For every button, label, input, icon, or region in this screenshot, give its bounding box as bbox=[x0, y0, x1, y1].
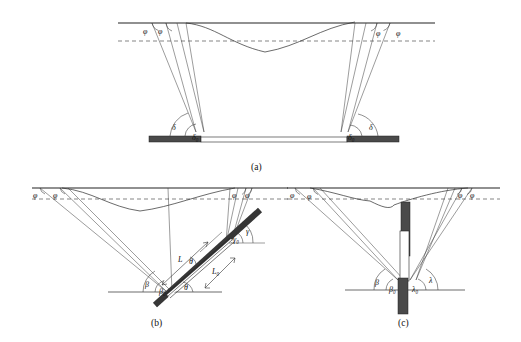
panel-b-length-L0-label: L₀ bbox=[211, 267, 219, 276]
panel-c-beta0-label: β₀ bbox=[388, 285, 396, 294]
panel-b-beta0-label: β₀ bbox=[158, 287, 166, 296]
panel-c-beta-label: β bbox=[374, 278, 379, 287]
panel-c-failure-plane-r4 bbox=[416, 188, 448, 280]
panel-c-settlement-trough-curve bbox=[310, 188, 468, 208]
panel-b: φ φ φ φ β β₀ bbox=[32, 188, 288, 329]
panel-a-hollow-base-bar-center bbox=[201, 137, 347, 142]
panel-b-gamma-label: γ bbox=[246, 227, 250, 236]
panel-a-failure-plane-r4 bbox=[341, 23, 355, 132]
technical-diagram-svg: φ φ φ φ δ δ₀ δ₀ δ (a) bbox=[0, 0, 521, 342]
panel-a-phi-label-1: φ bbox=[143, 27, 148, 36]
panel-a-failure-plane-l4 bbox=[186, 23, 204, 132]
panel-c-failure-plane-l2 bbox=[313, 188, 398, 280]
panel-a-settlement-trough-curve bbox=[186, 22, 355, 52]
panel-b-phi-label-3: φ bbox=[232, 191, 237, 200]
panel-b-failure-plane-l3 bbox=[68, 188, 172, 292]
panel-c-phi-label-4: φ bbox=[470, 191, 475, 200]
panel-b-beta-label: β bbox=[144, 280, 149, 289]
panel-c: φ φ φ φ β β₀ λ λ₀ (c) bbox=[287, 188, 500, 329]
panel-c-failure-plane-r2 bbox=[410, 188, 462, 280]
panel-a-delta-label-left: δ bbox=[172, 123, 176, 132]
panel-b-length-L-label: L bbox=[177, 255, 183, 264]
panel-a-phi-label-2: φ bbox=[158, 27, 163, 36]
panel-c-lambda-label: λ bbox=[428, 276, 433, 285]
panel-b-phi-label-2: φ bbox=[53, 191, 58, 200]
panel-b-inclined-pile-inner-bar bbox=[166, 238, 234, 298]
panel-c-vertical-pile-lower-dark bbox=[398, 278, 408, 314]
panel-b-length-L0-dimension bbox=[205, 258, 235, 288]
panel-a-phi-arc-r1 bbox=[384, 23, 391, 31]
panel-b-phi-label-1: φ bbox=[33, 191, 38, 200]
panel-c-failure-plane-l1 bbox=[295, 188, 398, 280]
panel-a-failure-plane-l1 bbox=[152, 23, 196, 132]
panel-a: φ φ φ φ δ δ₀ δ₀ δ (a) bbox=[118, 22, 435, 173]
panel-a-failure-plane-r1 bbox=[348, 23, 390, 132]
panel-b-settlement-trough-curve bbox=[62, 188, 235, 211]
panel-a-phi-label-4: φ bbox=[396, 29, 401, 38]
panel-c-vertical-pile-middle-hollow bbox=[400, 231, 409, 281]
panel-a-phi-label-3: φ bbox=[376, 29, 381, 38]
panel-c-caption: (c) bbox=[398, 318, 409, 329]
panel-b-gamma0-label: γ₀ bbox=[233, 235, 239, 244]
panel-a-delta0-label-right: δ₀ bbox=[348, 133, 355, 142]
panel-b-theta-label-mid: θ bbox=[189, 257, 193, 266]
panel-a-dark-base-bar-right bbox=[347, 136, 399, 142]
panel-c-failure-plane-r3 bbox=[416, 188, 455, 280]
panel-b-failure-plane-l1 bbox=[40, 188, 167, 292]
panel-c-failure-plane-r1 bbox=[410, 188, 472, 280]
figure-root: φ φ φ φ δ δ₀ δ₀ δ (a) bbox=[0, 0, 521, 342]
panel-c-failure-plane-l3 bbox=[320, 188, 404, 280]
panel-a-delta0-label-left: δ₀ bbox=[192, 133, 199, 142]
panel-c-phi-label-1: φ bbox=[290, 191, 295, 200]
panel-b-caption: (b) bbox=[151, 318, 162, 329]
panel-c-phi-label-2: φ bbox=[307, 192, 312, 201]
panel-b-theta-label-base: θ bbox=[184, 283, 188, 292]
panel-c-lambda0-arc bbox=[418, 279, 426, 290]
panel-c-phi-label-3: φ bbox=[458, 191, 463, 200]
panel-a-caption: (a) bbox=[251, 162, 262, 173]
panel-b-phi-label-4: φ bbox=[245, 191, 250, 200]
panel-a-delta-label-right: δ bbox=[369, 123, 373, 132]
panel-c-lambda0-label: λ₀ bbox=[411, 285, 418, 294]
